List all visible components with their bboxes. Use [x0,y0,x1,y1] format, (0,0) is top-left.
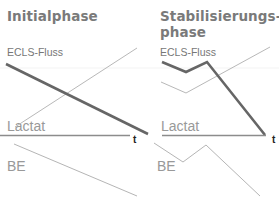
ecls-flow-line-stabilization [162,62,265,135]
diagram-lines [0,0,279,199]
ecls-flow-line-initial [6,64,148,134]
be-line-stabilization [154,143,260,196]
lactate-line-initial [15,48,137,127]
lactate-line-stabilization [161,47,270,93]
be-line-initial [14,144,137,196]
